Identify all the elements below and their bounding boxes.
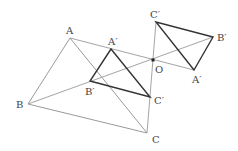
line-a-to-a-prime <box>70 38 194 70</box>
label-outer-c-prime: C′ <box>150 9 161 20</box>
line-c-to-c-prime <box>147 22 156 133</box>
line-b-to-b-prime <box>28 37 213 104</box>
label-outer-a-prime: A′ <box>191 74 202 85</box>
center-point-o <box>152 59 155 62</box>
label-c: C <box>152 134 160 145</box>
label-outer-b-prime: B′ <box>217 32 227 43</box>
label-b: B <box>16 99 23 110</box>
homothety-diagram: A B C A′ B′ C′ O C′ B′ A′ <box>0 0 238 151</box>
label-inner-c-prime: C′ <box>154 95 165 106</box>
label-inner-a-prime: A′ <box>107 36 118 47</box>
label-inner-b-prime: B′ <box>85 86 95 97</box>
label-o: O <box>155 64 163 75</box>
label-a: A <box>65 25 74 36</box>
